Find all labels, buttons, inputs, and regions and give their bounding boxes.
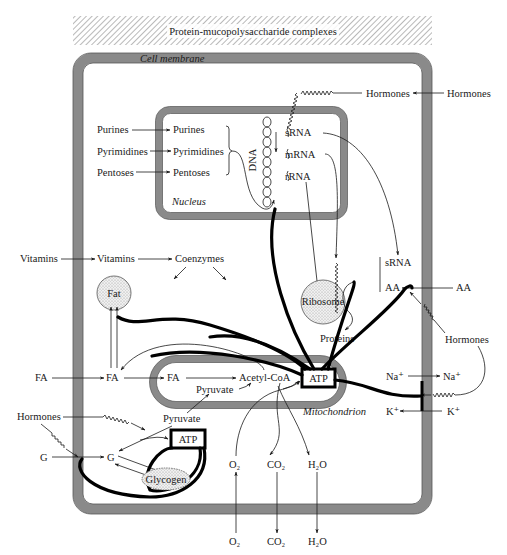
atp-cytosol-label: ATP — [179, 434, 198, 445]
hormones-top-outside: Hormones — [447, 88, 491, 99]
na-inside: Na⁺ — [386, 371, 404, 382]
co2-outside: CO₂ — [267, 536, 286, 547]
nucleus-label: Nucleus — [171, 196, 206, 207]
pyruvate-cytosol: Pyruvate — [163, 413, 201, 424]
aa-outside-label: AA — [456, 282, 472, 293]
pentoses-outside: Pentoses — [97, 167, 134, 178]
glucose-pathway: Hormones G G Pyruvate ATP Glycogen — [17, 394, 209, 497]
o2-outside: O₂ — [229, 536, 241, 547]
fat-label: Fat — [107, 288, 121, 299]
o2-inside: O₂ — [229, 459, 241, 470]
cell-membrane-label: Cell membrane — [140, 53, 205, 64]
hormone-signal-top: Hormones Hormones — [276, 88, 491, 152]
na-outside: Na⁺ — [443, 371, 461, 382]
atp-mito: ATP — [302, 369, 335, 387]
fa-mito: FA — [167, 372, 180, 383]
h2o-outside: H₂O — [308, 536, 327, 547]
aa-inside-label: AA — [385, 282, 401, 293]
vitamin-pathway: Vitamins Vitamins Coenzymes — [20, 253, 226, 280]
purines-inside: Purines — [173, 124, 205, 135]
pyrimidines-outside: Pyrimidines — [97, 146, 148, 157]
k-outside: K⁺ — [447, 406, 460, 417]
vitamins-inside: Vitamins — [97, 253, 135, 264]
pyruvate-mito: Pyruvate — [196, 384, 234, 395]
pentoses-inside: Pentoses — [173, 167, 210, 178]
mrna-label: mRNA — [285, 149, 316, 160]
coenzymes-label: Coenzymes — [175, 253, 224, 264]
g-outside: G — [40, 452, 48, 463]
cell-metabolism-diagram: Protein-mucopolysaccharide complexes Cel… — [0, 0, 507, 555]
purines-outside: Purines — [97, 124, 129, 135]
fa-cytosol: FA — [106, 372, 119, 383]
extracellular-coat: Protein-mucopolysaccharide complexes — [73, 16, 432, 45]
co2-inside: CO₂ — [267, 459, 286, 470]
pyrimidines-inside: Pyrimidines — [173, 146, 224, 157]
vitamins-outside: Vitamins — [20, 253, 58, 264]
hormones-left: Hormones — [17, 411, 61, 422]
atp-mito-label: ATP — [309, 373, 328, 384]
glycogen-label: Glycogen — [146, 474, 188, 485]
srna-trna-label: sRNA — [385, 257, 412, 268]
mitochondrion-label: Mitochondrion — [302, 406, 366, 417]
h2o-inside: H₂O — [308, 459, 327, 470]
k-inside: K⁺ — [386, 406, 399, 417]
hormones-top-inside: Hormones — [366, 88, 410, 99]
dna-label: DNA — [247, 148, 258, 171]
fa-outside: FA — [35, 372, 48, 383]
hormones-right: Hormones — [445, 334, 489, 345]
acetyl-coa-label: Acetyl-CoA — [239, 372, 291, 383]
coat-label: Protein-mucopolysaccharide complexes — [169, 26, 337, 37]
g-inside: G — [107, 452, 115, 463]
